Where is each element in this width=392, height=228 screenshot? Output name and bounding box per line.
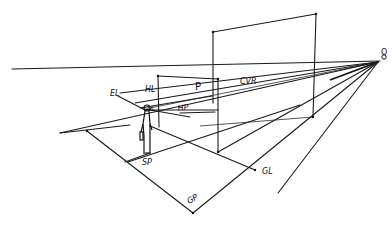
label-gp: GP xyxy=(186,192,200,205)
markers xyxy=(86,13,317,214)
label-as: AS xyxy=(145,105,154,112)
ground-plane xyxy=(60,62,378,213)
eye-level-grid xyxy=(118,96,218,117)
label-sp: SP xyxy=(142,158,152,167)
label-el: EL xyxy=(110,89,120,98)
label-gl: GL xyxy=(262,167,273,176)
large-picture-plane xyxy=(213,14,316,117)
label-o: O xyxy=(381,48,387,57)
horizon-line xyxy=(12,61,380,69)
person-figure-icon xyxy=(140,105,152,153)
perspective-diagram: EL HL P CVR HP AS SP GL GP O xyxy=(0,0,392,228)
label-hl: HL xyxy=(145,85,155,94)
label-cvr: CVR xyxy=(240,77,257,86)
label-hp: HP xyxy=(177,103,189,113)
label-p: P xyxy=(195,81,201,92)
